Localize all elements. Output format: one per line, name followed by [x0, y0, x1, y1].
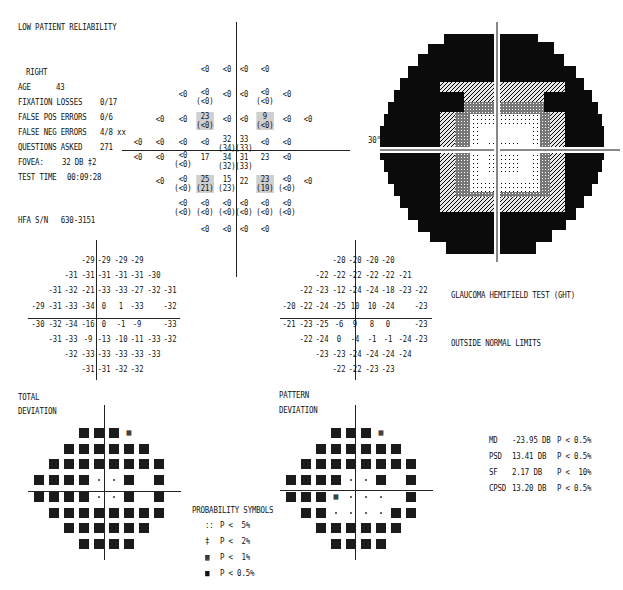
deviation-value: -33 [147, 335, 160, 344]
prob-symbol-0-5 [109, 508, 119, 518]
prob-symbol-0-5 [79, 428, 89, 438]
prob-symbol-0-5 [79, 523, 89, 533]
param-label: FALSE POS ERRORS [18, 112, 86, 122]
ght-result: OUTSIDE NORMAL LIMITS [451, 338, 541, 348]
param-value: 271 [100, 142, 113, 152]
greyscale-map [380, 22, 620, 262]
prob-symbol-0-5 [154, 475, 164, 485]
deviation-value: -24 [348, 350, 361, 359]
threshold-value: 23 [261, 153, 270, 162]
prob-symbol-1: ▩ [379, 429, 384, 437]
threshold-value: <0 [223, 65, 232, 74]
threshold-value: <0 (<0) [174, 199, 191, 217]
deviation-value: -34 [81, 302, 94, 311]
prob-symbol-0-5 [391, 523, 401, 533]
param-label: FOVEA: [18, 157, 44, 167]
threshold-value: <0 (<0) [174, 151, 191, 169]
deviation-value: -20 [348, 256, 361, 265]
pattern-deviation-title: PATTERN [279, 390, 309, 400]
threshold-value: <0 (<0) [235, 199, 252, 217]
deviation-value: -32 [64, 350, 77, 359]
deviation-value: -16 [81, 320, 94, 329]
threshold-value: <0 [283, 153, 292, 162]
prob-symbol-normal [365, 512, 367, 514]
deviation-value: -24 [365, 286, 378, 295]
prob-symbol-0-5 [346, 444, 356, 454]
pattern-deviation-subtitle: DEVIATION [279, 405, 318, 415]
deviation-value: -12 [332, 286, 345, 295]
deviation-value: -33 [97, 350, 110, 359]
threshold-value: <0 [156, 115, 165, 124]
threshold-value: <0 [179, 138, 188, 147]
index-name: SF [489, 467, 498, 477]
prob-symbol-0-5 [109, 523, 119, 533]
prob-symbol-0-5 [331, 459, 341, 469]
deviation-value: 0 [336, 335, 340, 344]
prob-symbol-1: ▩ [334, 493, 339, 501]
deviation-value: 8 [369, 320, 373, 329]
prob-symbol-0-5 [391, 444, 401, 454]
deviation-value: -23 [414, 320, 427, 329]
prob-symbol-0-5 [376, 459, 386, 469]
prob-symbol-0-5 [154, 492, 164, 502]
threshold-value: 22 [240, 177, 249, 186]
prob-symbol-normal [98, 479, 100, 481]
prob-symbol-0-5 [109, 459, 119, 469]
deviation-value: -22 [348, 271, 361, 280]
deviation-value: -24 [348, 286, 361, 295]
eye-label: RIGHT [26, 67, 47, 77]
param-label: AGE [18, 82, 31, 92]
deviation-value: -9 [133, 320, 142, 329]
deviation-value: -1 [384, 335, 393, 344]
threshold-value: <0 [201, 138, 210, 147]
prob-symbol-0-5 [79, 475, 89, 485]
prob-symbol-normal [335, 512, 337, 514]
prob-symbol-0-5 [139, 444, 149, 454]
threshold-value: <0 [134, 153, 143, 162]
prob-symbol-normal [380, 512, 382, 514]
deviation-value: -31 [48, 286, 61, 295]
deviation-value: -33 [97, 286, 110, 295]
threshold-value: <0 [134, 138, 143, 147]
threshold-value: <0 [261, 65, 270, 74]
deviation-value: 0 [102, 320, 106, 329]
deviation-value: -31 [81, 271, 94, 280]
prob-symbol-0-5 [316, 523, 326, 533]
prob-symbol-0-5 [64, 444, 74, 454]
prob-symbol-0-5 [94, 508, 104, 518]
index-value: 13.20 DB [512, 483, 561, 493]
ght-title: GLAUCOMA HEMIFIELD TEST (GHT) [451, 290, 575, 300]
legend-label: P < 0.5% [220, 568, 254, 578]
param-value: 00:09:28 [67, 172, 101, 182]
deviation-value: -22 [332, 271, 345, 280]
prob-symbol-0-5 [94, 539, 104, 549]
threshold-value: <0 [240, 115, 249, 124]
prob-symbol-0-5 [64, 523, 74, 533]
prob-symbol-0-5 [34, 475, 44, 485]
deviation-value: -22 [381, 271, 394, 280]
deviation-value: -24 [381, 350, 394, 359]
prob-symbol-0-5 [34, 492, 44, 502]
prob-symbol-0-5 [376, 475, 386, 485]
deviation-value: -22 [332, 365, 345, 374]
deviation-value: -20 [381, 256, 394, 265]
greyscale-plot: 30° [380, 22, 620, 262]
deviation-value: -33 [64, 335, 77, 344]
threshold-value: 23 (19) [256, 175, 273, 193]
legend-title: PROBABILITY SYMBOLS [192, 505, 273, 515]
legend-symbol-icon: ▩ [205, 552, 209, 562]
threshold-value: <0 [156, 153, 165, 162]
deviation-value: -22 [315, 271, 328, 280]
prob-symbol-0-5 [346, 539, 356, 549]
deviation-value: -22 [299, 335, 312, 344]
deviation-value: -21 [282, 320, 295, 329]
deviation-value: -30 [31, 320, 44, 329]
prob-symbol-0-5 [316, 508, 326, 518]
deviation-value: -29 [130, 256, 143, 265]
deviation-value: -24 [398, 350, 411, 359]
deviation-value: -29 [97, 256, 110, 265]
prob-symbol-0-5 [406, 459, 416, 469]
prob-symbol-0-5 [301, 475, 311, 485]
deviation-value: -10 [114, 335, 127, 344]
prob-symbol-0-5 [64, 508, 74, 518]
